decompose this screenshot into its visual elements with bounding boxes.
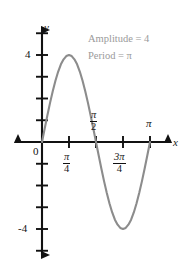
x-tick-label-pi: π — [146, 118, 152, 129]
x-tick-label-origin: 0 — [33, 146, 39, 157]
x-axis-label: x — [173, 137, 178, 148]
period-annotation: Period = π — [88, 51, 132, 62]
x-tick-label-pi-over-2: π 2 — [90, 110, 97, 132]
y-tick-label-4: 4 — [25, 49, 31, 60]
x-axis — [18, 136, 168, 148]
amplitude-annotation: Amplitude = 4 — [88, 34, 149, 45]
x-tick-label-3pi-over-4: 3π 4 — [113, 152, 126, 174]
sine-graph-figure: y x 0 4 -4 π 4 π 2 3π 4 π Amplitude = 4 … — [0, 0, 187, 274]
x-tick-label-pi-over-4: π 4 — [63, 152, 70, 174]
y-axis-label: y — [44, 22, 49, 33]
y-tick-label-minus-4: -4 — [18, 223, 27, 234]
